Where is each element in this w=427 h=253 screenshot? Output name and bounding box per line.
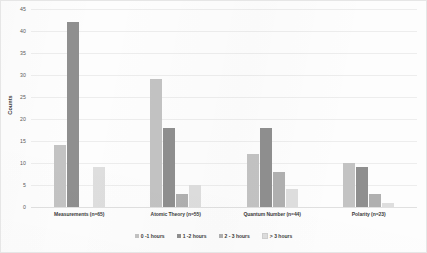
- bar[interactable]: [286, 189, 298, 207]
- bar[interactable]: [163, 128, 175, 207]
- bar[interactable]: [369, 194, 381, 207]
- gridline: [31, 207, 417, 208]
- bar[interactable]: [343, 163, 355, 207]
- legend-label: 1 -2 hours: [183, 233, 207, 239]
- bar[interactable]: [260, 128, 272, 207]
- bar[interactable]: [189, 185, 201, 207]
- x-axis-category-label: Measurements (n=65): [37, 211, 122, 225]
- bar[interactable]: [176, 194, 188, 207]
- y-axis-label: Counts: [7, 95, 13, 114]
- plot-area: [31, 9, 417, 207]
- bar-group: [37, 9, 122, 207]
- legend-item[interactable]: 0 -1 hours: [135, 233, 165, 239]
- legend-swatch-icon: [262, 233, 268, 239]
- y-axis-tick-label: 15: [20, 138, 26, 144]
- bar[interactable]: [273, 172, 285, 207]
- legend-label: 2 - 3 hours: [225, 233, 250, 239]
- bar-groups: [31, 9, 417, 207]
- legend-swatch-icon: [219, 234, 223, 238]
- x-axis-labels: Measurements (n=65)Atomic Theory (n=55)Q…: [31, 211, 417, 225]
- bar[interactable]: [356, 167, 368, 207]
- bar[interactable]: [247, 154, 259, 207]
- y-axis-ticks: 051015202530354045: [1, 9, 29, 207]
- y-axis-tick-label: 25: [20, 94, 26, 100]
- legend-swatch-icon: [135, 234, 139, 238]
- bar-group: [133, 9, 218, 207]
- y-axis-tick-label: 10: [20, 160, 26, 166]
- x-axis-category-label: Quantum Number (n=44): [230, 211, 315, 225]
- legend-swatch-icon: [177, 234, 181, 238]
- legend-item[interactable]: 1 -2 hours: [177, 233, 207, 239]
- bar-chart-figure: 051015202530354045 Counts Measurements (…: [0, 0, 427, 253]
- y-axis-tick-label: 40: [20, 28, 26, 34]
- chart-legend: 0 -1 hours1 -2 hours2 - 3 hours> 3 hours: [1, 233, 426, 239]
- legend-label: 0 -1 hours: [141, 233, 165, 239]
- y-axis-tick-label: 30: [20, 72, 26, 78]
- bar[interactable]: [67, 22, 79, 207]
- bar[interactable]: [150, 79, 162, 207]
- legend-item[interactable]: 2 - 3 hours: [219, 233, 250, 239]
- x-axis-category-label: Polarity (n=23): [326, 211, 411, 225]
- bar[interactable]: [93, 167, 105, 207]
- bar[interactable]: [54, 145, 66, 207]
- y-axis-tick-label: 35: [20, 50, 26, 56]
- y-axis-tick-label: 0: [23, 204, 26, 210]
- bar-group: [230, 9, 315, 207]
- x-axis-category-label: Atomic Theory (n=55): [133, 211, 218, 225]
- legend-label: > 3 hours: [270, 233, 292, 239]
- y-axis-tick-label: 45: [20, 6, 26, 12]
- bar-group: [326, 9, 411, 207]
- bar[interactable]: [382, 203, 394, 207]
- y-axis-tick-label: 5: [23, 182, 26, 188]
- legend-item[interactable]: > 3 hours: [262, 233, 292, 239]
- y-axis-tick-label: 20: [20, 116, 26, 122]
